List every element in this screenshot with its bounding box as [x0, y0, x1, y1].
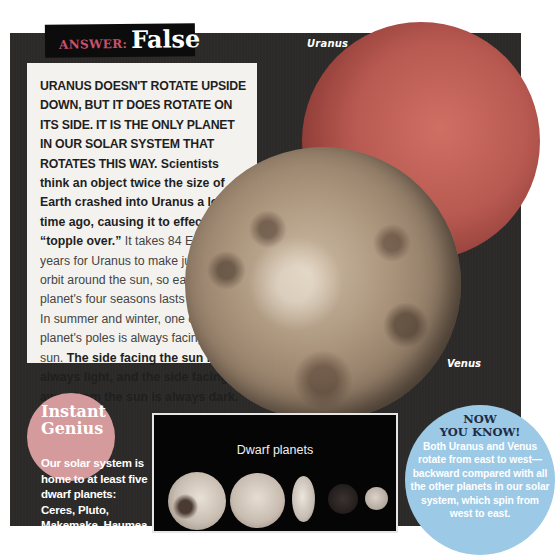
instant-genius-title-line2: Genius: [41, 420, 106, 437]
instant-genius-title-line1: Instant: [41, 403, 106, 420]
dwarf-planet-1: [168, 472, 226, 530]
answer-label: ANSWER:: [59, 37, 127, 52]
now-you-know-title-line2: YOU KNOW!: [405, 426, 555, 439]
venus-label: Venus: [447, 358, 481, 369]
dwarf-planets-figure: Dwarf planets: [152, 413, 398, 533]
uranus-label: Uranus: [307, 38, 348, 49]
dwarf-planet-2: [230, 473, 285, 528]
answer-tag: ANSWER: False: [45, 23, 195, 58]
venus-image: [185, 147, 461, 421]
dwarf-planet-5: [365, 487, 388, 510]
now-you-know-title: NOW YOU KNOW!: [405, 413, 555, 439]
dwarf-planet-3: [292, 476, 315, 522]
now-you-know-body: Both Uranus and Venus rotate from east t…: [409, 440, 551, 520]
instant-genius-body: Our solar system is home to at least fiv…: [41, 456, 151, 549]
instant-genius-title: Instant Genius: [41, 403, 106, 437]
dwarf-planets-title: Dwarf planets: [154, 443, 396, 457]
dwarf-planet-4: [328, 484, 358, 514]
answer-value: False: [131, 23, 201, 55]
